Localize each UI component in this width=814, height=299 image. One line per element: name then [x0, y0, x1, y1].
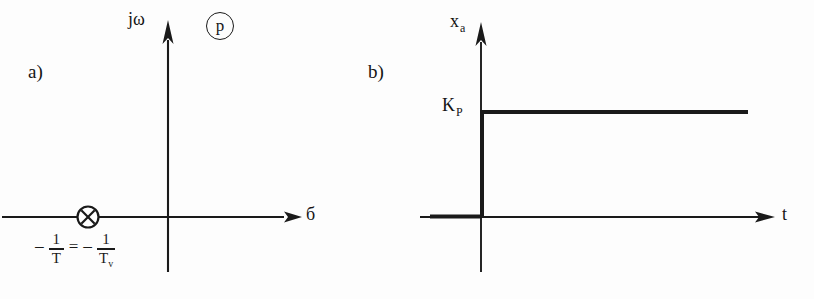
figure-vector-layer	[0, 0, 814, 299]
fraction-denominator-2-subscript: v	[108, 258, 113, 269]
time-axis-label: t	[782, 205, 787, 223]
pole-marker-group	[78, 207, 99, 228]
domain-badge-p: p	[206, 12, 234, 40]
fraction-numerator: 1	[50, 232, 62, 248]
real-axis-arrowhead	[284, 212, 302, 223]
step-level-label-base: K	[442, 95, 455, 115]
expression-equals: =	[65, 237, 83, 257]
value-axis-label-subscript: a	[460, 21, 465, 35]
fraction-denominator: T	[50, 250, 63, 266]
step-level-label-subscript: P	[456, 105, 463, 119]
expression-minus-1: −	[34, 237, 48, 259]
step-level-label: KP	[442, 96, 462, 114]
step-response-curve	[430, 111, 748, 218]
panel-b-tag: b)	[368, 62, 384, 81]
fraction-numerator-2: 1	[100, 232, 112, 248]
expression-minus-2: −	[82, 237, 96, 259]
figure-container: a) jω p б − 1 T = − 1 Tv b) xa KP t	[0, 0, 814, 299]
value-axis-label-base: x	[450, 11, 459, 31]
fraction-one-over-t: 1 T	[49, 232, 64, 266]
fraction-denominator-2: Tv	[97, 250, 115, 266]
domain-badge-label: p	[216, 16, 225, 36]
imaginary-axis-label: jω	[128, 10, 145, 28]
pole-location-expression: − 1 T = − 1 Tv	[34, 232, 116, 266]
fraction-denominator-2-base: T	[99, 250, 108, 266]
panel-b-axes	[420, 22, 775, 272]
panel-a-tag: a)	[28, 62, 43, 81]
value-axis-label: xa	[450, 12, 464, 30]
fraction-one-over-tv: 1 Tv	[97, 232, 115, 266]
real-axis-label: б	[306, 205, 315, 223]
